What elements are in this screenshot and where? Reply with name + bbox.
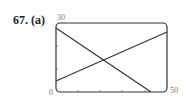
chart-plot (0, 0, 183, 102)
axis-ticks (56, 46, 145, 92)
plot-frame (56, 23, 167, 92)
